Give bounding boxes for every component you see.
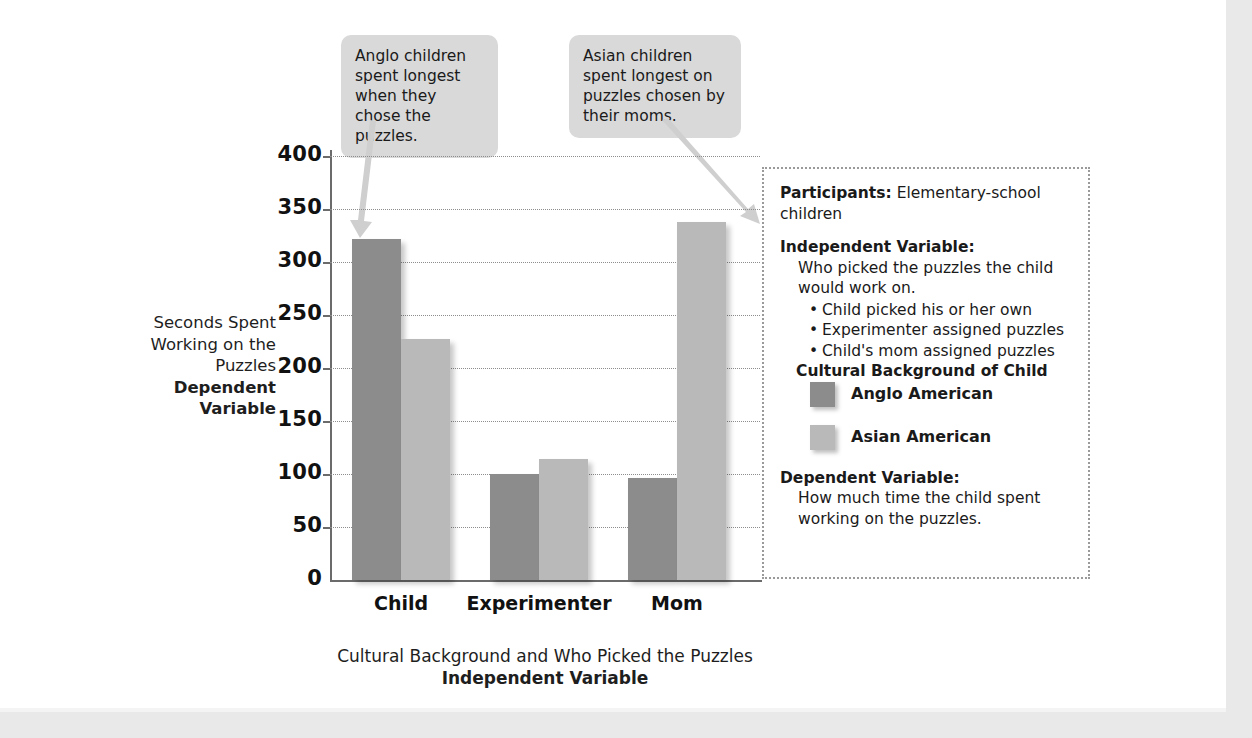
dependent-variable-label: Dependent Variable: xyxy=(780,468,1072,489)
dependent-variable-block: Dependent Variable: How much time the ch… xyxy=(780,468,1072,530)
y-tick-mark xyxy=(323,527,330,529)
legend-title: Cultural Background of Child xyxy=(780,361,1072,382)
y-tick-mark xyxy=(323,421,330,423)
participants-line: Participants: Elementary-school children xyxy=(780,183,1072,224)
list-item: Child's mom assigned puzzles xyxy=(822,341,1072,362)
chart-page: Anglo children spent longest when they c… xyxy=(0,0,1252,738)
y-axis-title: Seconds Spent Working on the Puzzles Dep… xyxy=(108,312,276,420)
y-tick-mark xyxy=(323,156,330,158)
legend-item-asian: Asian American xyxy=(780,425,1072,450)
y-tick-label: 350 xyxy=(262,195,322,219)
y-axis-title-regular: Seconds Spent Working on the Puzzles xyxy=(151,313,276,375)
bar-mom-asian xyxy=(677,222,726,580)
gridline xyxy=(330,209,760,210)
bar-experimenter-anglo xyxy=(490,474,539,580)
x-category-mom: Mom xyxy=(587,592,767,614)
independent-variable-label: Independent Variable: xyxy=(780,237,1072,258)
bar-mom-anglo xyxy=(628,478,677,580)
y-tick-mark xyxy=(323,262,330,264)
y-tick-mark xyxy=(323,474,330,476)
page-edge-right xyxy=(1226,0,1252,712)
info-legend-panel: Participants: Elementary-school children… xyxy=(762,167,1090,579)
y-tick-mark xyxy=(323,209,330,211)
y-tick-label: 400 xyxy=(262,142,322,166)
x-axis-line xyxy=(330,580,762,582)
dependent-variable-text: How much time the child spent working on… xyxy=(780,488,1072,529)
independent-variable-text: Who picked the puzzles the child would w… xyxy=(780,258,1072,299)
y-tick-label: 300 xyxy=(262,248,322,272)
bar-child-asian xyxy=(401,339,450,580)
list-item: Experimenter assigned puzzles xyxy=(822,320,1072,341)
x-axis-title: Cultural Background and Who Picked the P… xyxy=(300,645,790,689)
list-item: Child picked his or her own xyxy=(822,300,1072,321)
legend-rows: Anglo AmericanAsian American xyxy=(780,382,1072,450)
y-tick-label: 100 xyxy=(262,460,322,484)
legend-label: Anglo American xyxy=(851,384,993,405)
participants-label: Participants: xyxy=(780,184,892,202)
y-tick-mark xyxy=(323,368,330,370)
y-tick-label: 50 xyxy=(262,513,322,537)
x-axis-title-regular: Cultural Background and Who Picked the P… xyxy=(337,646,753,666)
y-axis-title-bold: Dependent Variable xyxy=(174,378,276,419)
legend-swatch-icon xyxy=(810,425,835,450)
y-tick-mark xyxy=(323,315,330,317)
bar-child-anglo xyxy=(352,239,401,580)
bar-experimenter-asian xyxy=(539,459,588,580)
independent-variable-bullets: Child picked his or her ownExperimenter … xyxy=(780,300,1072,362)
y-tick-label: 0 xyxy=(262,566,322,590)
legend-label: Asian American xyxy=(851,427,991,448)
page-edge-bottom xyxy=(0,712,1252,738)
gridline xyxy=(330,156,760,157)
plot-area xyxy=(330,156,760,580)
legend-swatch-icon xyxy=(810,382,835,407)
x-axis-title-bold: Independent Variable xyxy=(442,668,649,688)
legend-item-anglo: Anglo American xyxy=(780,382,1072,407)
